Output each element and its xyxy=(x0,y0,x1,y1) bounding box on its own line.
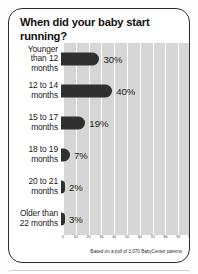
bar xyxy=(61,117,85,130)
bar-chart: Younger than 12 months30%12 to 14 months… xyxy=(9,43,190,243)
x-axis-tick-label: 0 xyxy=(62,235,64,239)
bar-value-label: 19% xyxy=(89,118,108,129)
bar-value-label: 30% xyxy=(103,54,122,65)
bar-rows: Younger than 12 months30%12 to 14 months… xyxy=(9,43,190,235)
x-axis-tick-label: 30 xyxy=(99,235,103,239)
x-axis-tick-label: 90 xyxy=(176,235,180,239)
x-axis-tick-label: 60 xyxy=(138,235,142,239)
category-label: Older than 22 months xyxy=(9,209,61,228)
category-label: 20 to 21 months xyxy=(9,177,61,196)
bar xyxy=(61,53,99,66)
x-axis-tick-label: 100 xyxy=(188,235,190,239)
x-axis-tick-label: 10 xyxy=(74,235,78,239)
x-axis-tick-label: 70 xyxy=(151,235,155,239)
x-axis: 0102030405060708090100 xyxy=(63,235,190,247)
bar-row: Older than 22 months3% xyxy=(9,203,190,235)
bar-value-label: 40% xyxy=(116,86,135,97)
x-axis-tick-label: 80 xyxy=(163,235,167,239)
bar-track: 7% xyxy=(61,139,190,171)
x-axis-tick-label: 40 xyxy=(112,235,116,239)
category-label: 12 to 14 months xyxy=(9,81,61,100)
bar xyxy=(61,149,70,162)
bar-value-label: 3% xyxy=(69,214,83,225)
bar xyxy=(61,85,112,98)
bar-track: 19% xyxy=(61,107,190,139)
bar-track: 30% xyxy=(61,43,190,75)
bar xyxy=(61,181,65,194)
category-label: 15 to 17 months xyxy=(9,113,61,132)
bar-row: 20 to 21 months2% xyxy=(9,171,190,203)
page-title: When did your baby start running? xyxy=(20,16,180,43)
bar-row: 12 to 14 months40% xyxy=(9,75,190,107)
category-label: 18 to 19 months xyxy=(9,145,61,164)
bar-row: 18 to 19 months7% xyxy=(9,139,190,171)
bar-row: 15 to 17 months19% xyxy=(9,107,190,139)
bar-track: 40% xyxy=(61,75,190,107)
bar-value-label: 7% xyxy=(74,150,88,161)
chart-screenshot: When did your baby start running? Younge… xyxy=(0,0,198,274)
category-label: Younger than 12 months xyxy=(9,45,61,74)
source-footnote: Based on a poll of 3,070 BabyCenter pare… xyxy=(90,249,182,254)
bar xyxy=(61,213,65,226)
x-axis-tick-label: 50 xyxy=(125,235,129,239)
survey-result-card: When did your baby start running? Younge… xyxy=(8,8,190,263)
bar-track: 2% xyxy=(61,171,190,203)
x-axis-tick-label: 20 xyxy=(87,235,91,239)
bar-row: Younger than 12 months30% xyxy=(9,43,190,75)
below-card-strip xyxy=(8,270,190,274)
bar-track: 3% xyxy=(61,203,190,235)
bar-value-label: 2% xyxy=(69,182,83,193)
